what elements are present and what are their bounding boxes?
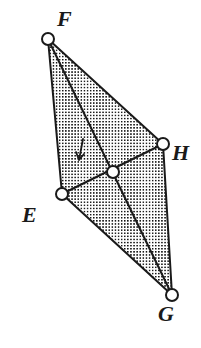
vertex-marker-intersection: [107, 166, 119, 178]
vertex-label-f: F: [57, 8, 72, 30]
vertex-marker-h: [157, 138, 169, 150]
vertex-marker-e: [56, 188, 68, 200]
vertex-label-h: H: [172, 142, 189, 164]
geometry-figure: F H E G: [0, 0, 201, 348]
vertex-marker-g: [166, 289, 178, 301]
vertex-label-g: G: [158, 303, 174, 325]
vertex-label-e: E: [22, 204, 37, 226]
geometry-canvas: [0, 0, 201, 348]
vertex-marker-f: [42, 33, 54, 45]
